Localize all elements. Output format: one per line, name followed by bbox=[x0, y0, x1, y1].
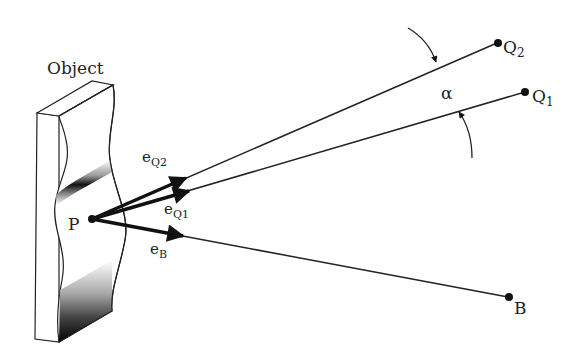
label-eQ1: eQ1 bbox=[164, 200, 189, 221]
label-Q2: Q2 bbox=[503, 37, 525, 60]
point-Q2-dot bbox=[494, 39, 502, 47]
point-P-label: P bbox=[68, 214, 79, 234]
label-B: B bbox=[514, 298, 527, 318]
diagram-canvas: Object P eQ2 eQ1 eB Q2 Q1 B α bbox=[0, 0, 585, 361]
label-Q1: Q1 bbox=[532, 86, 554, 109]
point-B-dot bbox=[505, 293, 513, 301]
angle-arrow-lower bbox=[459, 112, 472, 158]
label-eB: eB bbox=[150, 240, 167, 261]
object-label: Object bbox=[47, 58, 104, 78]
angle-alpha-label: α bbox=[441, 83, 453, 103]
point-P-dot bbox=[88, 215, 96, 223]
angle-indicators bbox=[408, 28, 472, 158]
point-Q1-dot bbox=[521, 88, 529, 96]
label-eQ2: eQ2 bbox=[142, 148, 167, 169]
angle-arrow-upper bbox=[408, 28, 436, 62]
ray-lines bbox=[92, 43, 525, 297]
diagram-svg: Object P eQ2 eQ1 eB Q2 Q1 B α bbox=[0, 0, 585, 361]
